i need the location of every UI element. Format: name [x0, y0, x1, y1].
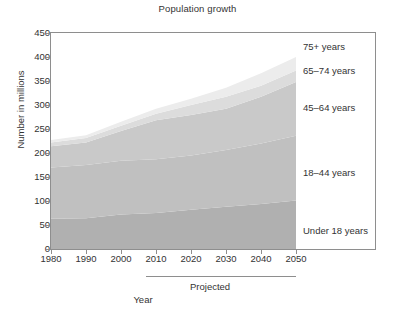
x-tick-mark — [121, 250, 122, 254]
x-tick-label: 2030 — [206, 253, 246, 264]
projected-annotation-label: Projected — [190, 281, 280, 292]
x-tick-mark — [296, 250, 297, 254]
x-tick-mark — [261, 250, 262, 254]
x-tick-mark — [226, 250, 227, 254]
chart-figure: Population growth Number in millions 050… — [0, 0, 395, 313]
x-tick-label: 1990 — [66, 253, 106, 264]
x-tick-label: 2000 — [101, 253, 141, 264]
x-axis-title: Year — [113, 294, 173, 305]
x-tick-mark — [191, 250, 192, 254]
x-tick-mark — [86, 250, 87, 254]
x-tick-mark — [51, 250, 52, 254]
x-tick-label: 1980 — [31, 253, 71, 264]
x-axis-ticks: 19801990200020102020203020402050 — [0, 0, 395, 313]
x-tick-label: 2020 — [171, 253, 211, 264]
projected-bracket-line — [146, 276, 297, 277]
x-tick-label: 2050 — [276, 253, 316, 264]
x-tick-mark — [156, 250, 157, 254]
x-tick-label: 2010 — [136, 253, 176, 264]
x-tick-label: 2040 — [241, 253, 281, 264]
